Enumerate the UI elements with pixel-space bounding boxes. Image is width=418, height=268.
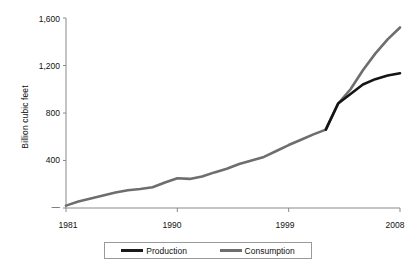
series-line-production <box>326 73 400 129</box>
x-axis-ticks <box>66 208 400 212</box>
legend-item-consumption: Consumption <box>220 246 295 256</box>
chart-container: Billion cubic feet 1,600 1,200 800 400 —… <box>0 0 418 268</box>
legend-swatch-consumption <box>220 249 242 252</box>
chart-legend: Production Consumption <box>104 242 312 259</box>
plot-area <box>0 0 418 268</box>
series-line-consumption <box>66 28 400 206</box>
legend-label-production: Production <box>146 246 187 256</box>
legend-swatch-production <box>121 249 143 252</box>
legend-item-production: Production <box>121 246 187 256</box>
legend-label-consumption: Consumption <box>245 246 295 256</box>
